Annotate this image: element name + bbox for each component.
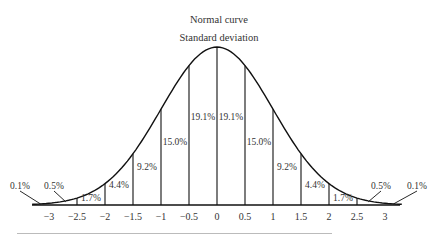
x-tick-label: 3 bbox=[383, 211, 388, 222]
x-tick-label: 2 bbox=[327, 211, 332, 222]
segment-label: 0.5% bbox=[371, 181, 391, 191]
segment-label: 9.2% bbox=[277, 162, 297, 172]
x-tick-label: −1.5 bbox=[124, 211, 142, 222]
x-tick-label: −1 bbox=[156, 211, 167, 222]
segment-label: 15.0% bbox=[247, 137, 272, 147]
segment-label: 1.7% bbox=[333, 193, 353, 203]
normal-curve-plot: −3−2.5−2−1.5−1−0.500.511.522.530.1%0.5%1… bbox=[0, 0, 438, 237]
callout-line bbox=[368, 191, 381, 202]
x-tick-label: 1 bbox=[271, 211, 276, 222]
segment-label: 15.0% bbox=[163, 137, 188, 147]
x-tick-label: 2.5 bbox=[351, 211, 364, 222]
segment-label: 0.1% bbox=[10, 181, 30, 191]
callout-line bbox=[393, 191, 417, 204]
segment-label: 19.1% bbox=[191, 112, 216, 122]
callout-line bbox=[54, 191, 66, 202]
segment-label: 4.4% bbox=[109, 180, 129, 190]
x-tick-label: −2 bbox=[100, 211, 111, 222]
x-tick-label: 0 bbox=[215, 211, 220, 222]
callout-line bbox=[20, 191, 41, 204]
segment-label: 0.1% bbox=[407, 181, 427, 191]
x-tick-label: −3 bbox=[44, 211, 55, 222]
segment-label: 4.4% bbox=[305, 180, 325, 190]
segment-label: 1.7% bbox=[81, 193, 101, 203]
x-tick-label: 0.5 bbox=[239, 211, 252, 222]
segment-label: 9.2% bbox=[137, 162, 157, 172]
x-tick-label: −0.5 bbox=[180, 211, 198, 222]
bottom-rule bbox=[17, 233, 332, 234]
x-tick-label: 1.5 bbox=[295, 211, 308, 222]
x-tick-label: −2.5 bbox=[68, 211, 86, 222]
segment-label: 19.1% bbox=[219, 112, 244, 122]
segment-label: 0.5% bbox=[44, 181, 64, 191]
